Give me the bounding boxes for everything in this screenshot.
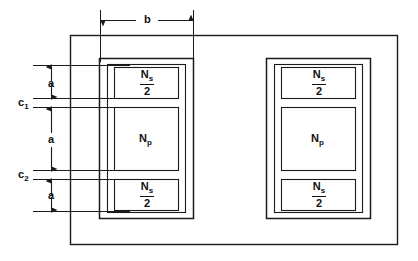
c1-subscript: 1 (24, 102, 28, 111)
right-secondary-bottom-denominator: 2 (303, 197, 335, 209)
dimension-label-a-bottom: a (48, 189, 54, 201)
c2-subscript: 2 (24, 174, 28, 183)
left-secondary-bottom-denominator: 2 (131, 197, 163, 209)
dimension-label-c2: c2 (18, 168, 29, 183)
diagram-vector-layer (0, 0, 418, 261)
diagram-canvas: b a a a c1 c2 Ns 2 Np Ns 2 Ns 2 Np Ns 2 (0, 0, 418, 261)
dimension-label-a-top: a (48, 77, 54, 89)
right-secondary-bottom-label: Ns 2 (303, 181, 335, 209)
right-secondary-top-denominator: 2 (303, 85, 335, 97)
left-secondary-bottom-label: Ns 2 (131, 181, 163, 209)
dimension-label-c1: c1 (18, 96, 29, 111)
left-secondary-top-label: Ns 2 (131, 69, 163, 97)
left-secondary-bottom-numerator: Ns (131, 181, 163, 196)
dimension-label-a-middle: a (48, 133, 54, 145)
left-secondary-top-numerator: Ns (131, 69, 163, 84)
right-primary-label: Np (311, 132, 324, 147)
right-secondary-bottom-numerator: Ns (303, 181, 335, 196)
left-primary-label: Np (139, 132, 152, 147)
left-secondary-top-denominator: 2 (131, 85, 163, 97)
core-window-outline (71, 36, 398, 245)
right-secondary-top-numerator: Ns (303, 69, 335, 84)
right-secondary-top-label: Ns 2 (303, 69, 335, 97)
dimension-label-b: b (144, 13, 151, 25)
